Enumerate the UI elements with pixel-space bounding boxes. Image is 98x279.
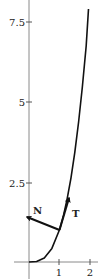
y-tick-label-7.5: 7.5	[9, 17, 25, 28]
normal-vector-arrow	[27, 217, 60, 230]
curve-line	[29, 9, 89, 262]
tangent-vector-label: T	[72, 208, 80, 219]
x-tick-label-1: 1	[56, 267, 62, 278]
normal-vector-label: N	[33, 205, 42, 216]
plot-area: 1 2 2.5 5 7.5 T N	[0, 0, 98, 279]
x-tick-label-2: 2	[87, 267, 93, 278]
y-tick-label-5: 5	[19, 97, 25, 108]
y-tick-label-2.5: 2.5	[9, 178, 25, 189]
tangent-vector-arrow	[60, 198, 70, 230]
